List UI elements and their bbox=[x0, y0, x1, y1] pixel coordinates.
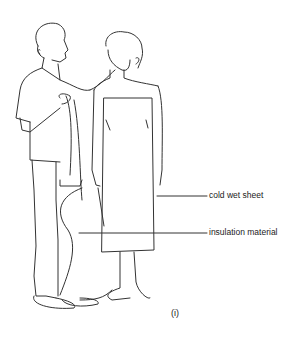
illustration bbox=[0, 0, 307, 341]
figure-number: (i) bbox=[171, 308, 179, 318]
woman-figure bbox=[92, 32, 162, 300]
man-figure bbox=[16, 23, 115, 308]
label-cold-wet-sheet: cold wet sheet bbox=[209, 190, 263, 200]
label-insulation-material: insulation material bbox=[209, 227, 278, 237]
